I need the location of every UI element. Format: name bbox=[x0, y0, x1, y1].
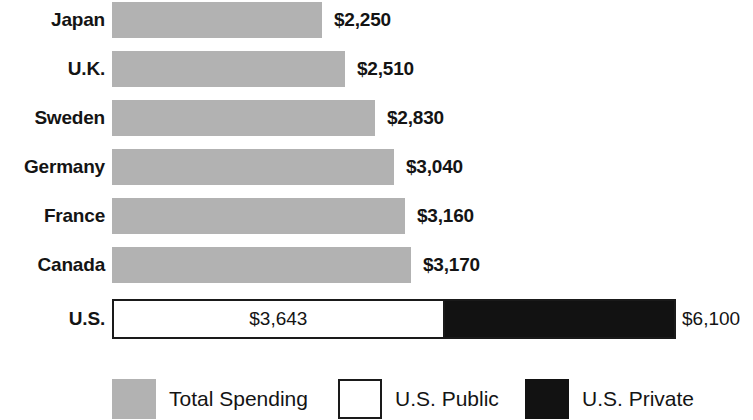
bar-row: U.K. $2,510 bbox=[0, 51, 753, 87]
bar-value-label: $2,510 bbox=[357, 51, 414, 87]
bar-track bbox=[112, 198, 405, 234]
bar-value-label: $3,040 bbox=[406, 149, 463, 185]
bar-total-spending bbox=[112, 198, 405, 234]
bar-segment-value-label: $3,643 bbox=[249, 308, 307, 330]
bar-row: Japan $2,250 bbox=[0, 2, 753, 38]
bar-row: Canada $3,170 bbox=[0, 247, 753, 283]
bar-row: Germany $3,040 bbox=[0, 149, 753, 185]
legend-label-total-spending: Total Spending bbox=[169, 387, 308, 411]
bar-value-label-us-total: $6,100 bbox=[682, 299, 740, 339]
bar-total-spending bbox=[112, 247, 411, 283]
category-label-us: U.S. bbox=[0, 299, 105, 339]
bar-track bbox=[112, 100, 375, 136]
bar-segment-us-private bbox=[443, 301, 674, 337]
bar-value-label: $3,160 bbox=[417, 198, 474, 234]
bar-track bbox=[112, 247, 411, 283]
bar-chart: Japan $2,250 U.K. $2,510 Sweden $2,830 G… bbox=[0, 0, 753, 420]
legend-item-us-private: U.S. Private bbox=[525, 378, 694, 420]
bar-track bbox=[112, 2, 322, 38]
category-label-japan: Japan bbox=[0, 2, 105, 38]
chart-plot-area: Japan $2,250 U.K. $2,510 Sweden $2,830 G… bbox=[0, 0, 753, 355]
bar-row: France $3,160 bbox=[0, 198, 753, 234]
category-label-canada: Canada bbox=[0, 247, 105, 283]
legend-label-us-public: U.S. Public bbox=[395, 387, 499, 411]
bar-row: Sweden $2,830 bbox=[0, 100, 753, 136]
bar-total-spending bbox=[112, 51, 345, 87]
chart-legend: Total Spending U.S. Public U.S. Private bbox=[0, 378, 753, 420]
bar-value-label: $3,170 bbox=[423, 247, 480, 283]
bar-value-label: $2,250 bbox=[334, 2, 391, 38]
legend-item-us-public: U.S. Public bbox=[338, 378, 499, 420]
bar-total-spending bbox=[112, 2, 322, 38]
bar-total-spending bbox=[112, 149, 394, 185]
bar-segment-us-public: $3,643 bbox=[114, 301, 443, 337]
bar-track bbox=[112, 51, 345, 87]
bar-row-us-stacked: U.S. $3,643 $6,100 bbox=[0, 299, 753, 339]
legend-swatch-gray-icon bbox=[112, 379, 156, 419]
legend-swatch-white-icon bbox=[338, 379, 382, 419]
bar-value-label: $2,830 bbox=[387, 100, 444, 136]
bar-total-spending bbox=[112, 100, 375, 136]
category-label-uk: U.K. bbox=[0, 51, 105, 87]
legend-swatch-black-icon bbox=[525, 379, 569, 419]
bar-track bbox=[112, 149, 394, 185]
category-label-germany: Germany bbox=[0, 149, 105, 185]
legend-label-us-private: U.S. Private bbox=[582, 387, 694, 411]
category-label-sweden: Sweden bbox=[0, 100, 105, 136]
legend-item-total-spending: Total Spending bbox=[112, 378, 308, 420]
category-label-france: France bbox=[0, 198, 105, 234]
stacked-bar-us: $3,643 bbox=[112, 299, 676, 339]
